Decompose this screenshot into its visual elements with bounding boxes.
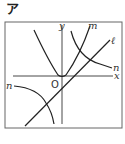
parabola-curve	[34, 30, 66, 77]
curve-n-right-label: n	[113, 62, 119, 73]
y-axis-label: y	[58, 20, 65, 31]
curve-n-left	[14, 86, 54, 124]
line-l	[25, 40, 110, 126]
line-l-label: ℓ	[111, 35, 115, 46]
graph-diagram: y x O m ℓ n n	[0, 0, 125, 144]
origin-label: O	[51, 79, 59, 90]
curve-m-label: m	[88, 20, 97, 31]
curve-n-left-label: n	[6, 80, 12, 91]
curve-m	[66, 26, 90, 75]
graph-frame	[5, 22, 122, 128]
curve-n-right	[71, 31, 112, 68]
